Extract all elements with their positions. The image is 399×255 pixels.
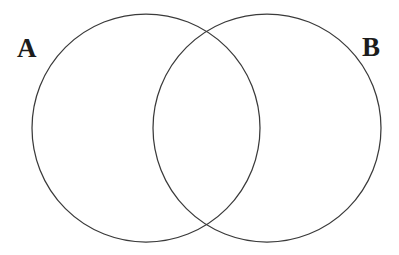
venn-canvas [0,0,399,255]
venn-diagram: A B [0,0,399,255]
set-label-a: A [17,35,37,62]
set-label-b: B [362,34,380,61]
